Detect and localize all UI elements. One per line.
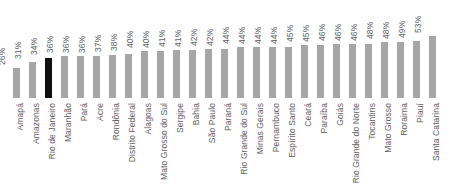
bar-value-label: 53%: [414, 16, 423, 33]
bar: [125, 54, 132, 98]
bar-value-label: 45%: [286, 25, 295, 42]
bar-group: 34%Rio de Janeiro: [40, 0, 56, 194]
bar: [13, 68, 20, 98]
bar-group: 31%Amazonas: [24, 0, 40, 194]
bar: [285, 47, 292, 98]
bar-value-label: 36%: [78, 36, 87, 53]
bar-value-label: 44%: [238, 27, 247, 44]
bar-value-label: 48%: [366, 22, 375, 39]
bar: [269, 47, 276, 98]
bar-value-label: 44%: [222, 27, 231, 44]
bar-value-label: 48%: [382, 22, 391, 39]
bar-value-label: 38%: [110, 34, 119, 51]
bar: [141, 51, 148, 98]
bar: [365, 44, 372, 98]
bar-group: 38%Distrito Federal: [120, 0, 136, 194]
bar: [189, 50, 196, 98]
bar-value-label: 45%: [302, 25, 311, 42]
bar: [93, 56, 100, 98]
bar-value-label: 37%: [94, 35, 103, 52]
bar-value-label: 31%: [14, 42, 23, 59]
bar-group: 40%Alagoas: [136, 0, 152, 194]
bar-value-label: 26%: [0, 48, 7, 65]
bar: [413, 41, 420, 98]
bar: [301, 45, 308, 98]
bar: [45, 58, 52, 98]
bar: [109, 55, 116, 98]
bar-value-label: 46%: [318, 24, 327, 41]
bar-value-label: 42%: [190, 29, 199, 46]
bar: [349, 44, 356, 98]
bar-value-label: 46%: [350, 24, 359, 41]
bar-value-label: 49%: [398, 21, 407, 38]
axis-baseline: [0, 98, 445, 99]
bar-group: 37%Rondônia: [104, 0, 120, 194]
bar-value-label: 41%: [158, 30, 167, 47]
bar-value-label: 46%: [334, 24, 343, 41]
bar-value-label: 44%: [270, 27, 279, 44]
bar-value-label: 40%: [126, 31, 135, 48]
bar-value-label: 40%: [142, 31, 151, 48]
bar: [157, 51, 164, 98]
bar: [61, 56, 68, 98]
bar-value-label: 44%: [254, 27, 263, 44]
bar: [397, 42, 404, 98]
bar-group: 53%Santa Catarina: [424, 0, 440, 194]
bar-group: 36%Maranhão: [56, 0, 72, 194]
bar: [253, 47, 260, 98]
plot-area: 26%Amapá31%Amazonas34%Rio de Janeiro36%M…: [8, 0, 453, 194]
category-label: Santa Catarina: [432, 103, 441, 161]
bar-value-label: 41%: [174, 30, 183, 47]
bar-group: 36%Pará: [72, 0, 88, 194]
bar-value-label: 42%: [206, 29, 215, 46]
bar-value-label: 36%: [62, 36, 71, 53]
bar-chart: 26%Amapá31%Amazonas34%Rio de Janeiro36%M…: [0, 0, 461, 194]
bar: [429, 36, 436, 98]
bar-group: 26%Amapá: [8, 0, 24, 194]
bar: [317, 45, 324, 98]
bar-value-label: 36%: [46, 36, 55, 53]
bar: [173, 50, 180, 98]
bar: [205, 49, 212, 98]
bar-value-label: 34%: [30, 38, 39, 55]
bar: [221, 49, 228, 98]
bar: [77, 56, 84, 98]
bar: [29, 62, 36, 98]
bar-group: 36%Acre: [88, 0, 104, 194]
bar: [381, 42, 388, 98]
bar: [237, 47, 244, 98]
bar: [333, 44, 340, 98]
